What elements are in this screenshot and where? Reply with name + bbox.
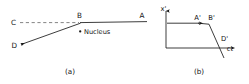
panel-a: C B A D Nucleus (a) [11, 11, 147, 76]
panel-b: x' ct A' B' D' (b) [161, 5, 234, 76]
caption-panel-a: (a) [65, 67, 75, 76]
segment-b-to-d-arrow [21, 23, 81, 44]
label-axis-x-prime: x' [161, 5, 167, 13]
label-point-c: C [11, 18, 16, 27]
nucleus-dot [79, 30, 81, 32]
label-point-d: D [12, 41, 18, 50]
caption-panel-b: (b) [194, 67, 204, 76]
label-axis-ct: ct [227, 45, 234, 53]
label-point-b-prime: B' [208, 14, 215, 22]
worldline-bend-segment [198, 23, 209, 24]
label-point-d-prime: D' [221, 35, 228, 43]
label-point-a: A [140, 11, 145, 20]
label-point-a-prime: A' [194, 14, 201, 22]
figure-canvas: C B A D Nucleus (a) x' ct A' B' D' (b) [0, 0, 249, 84]
physics-figure: C B A D Nucleus (a) x' ct A' B' D' (b) [0, 0, 249, 84]
label-point-b: B [77, 11, 82, 20]
segment-b-to-a [80, 22, 147, 23]
label-nucleus: Nucleus [84, 28, 111, 36]
